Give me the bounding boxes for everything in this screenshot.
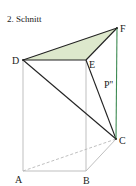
segment-label-p: P'' bbox=[104, 79, 113, 90]
vertex-label-e: E bbox=[89, 59, 95, 70]
vertex-label-a: A bbox=[15, 174, 23, 185]
edge-dc bbox=[23, 60, 116, 139]
vertex-d-dot bbox=[22, 59, 24, 61]
edge-fc-green bbox=[116, 28, 117, 139]
vertex-label-b: B bbox=[83, 175, 90, 186]
diagram-title: 2. Schnitt bbox=[7, 14, 42, 24]
vertex-label-d: D bbox=[12, 55, 19, 66]
vertex-label-f: F bbox=[120, 23, 126, 34]
vertex-label-c: C bbox=[119, 135, 126, 146]
edge-ec bbox=[86, 60, 116, 139]
vertex-c-dot bbox=[115, 138, 117, 140]
edge-ac-hidden bbox=[23, 139, 116, 171]
vertex-f-dot bbox=[116, 27, 118, 29]
prism-cut-diagram: 2. Schnitt A B C D E F P'' bbox=[0, 0, 136, 186]
